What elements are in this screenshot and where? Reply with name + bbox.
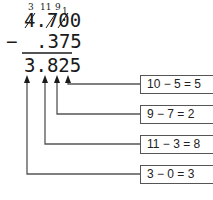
step-label: 9 − 7 = 2: [147, 107, 194, 121]
strike-7: [46, 13, 56, 28]
step-box-tenths: 11 − 3 = 8: [140, 135, 213, 154]
arrow-head: [65, 75, 71, 83]
strike-4: [25, 13, 35, 28]
step-box-ones: 3 − 0 = 3: [140, 165, 213, 184]
step-label: 11 − 3 = 8: [147, 137, 200, 151]
step-box-hundredths: 9 − 7 = 2: [140, 105, 213, 124]
step-label: 3 − 0 = 3: [147, 167, 194, 181]
arrow-head: [54, 75, 60, 83]
arrow-head: [42, 75, 48, 83]
step-box-thousandths: 10 − 5 = 5: [140, 75, 213, 94]
step-label: 10 − 5 = 5: [147, 77, 201, 91]
strike-0: [58, 13, 68, 28]
subtraction-diagram: 3 11 9 1 4.700 − .375 3.825: [0, 0, 213, 200]
arrow-head: [24, 75, 30, 83]
